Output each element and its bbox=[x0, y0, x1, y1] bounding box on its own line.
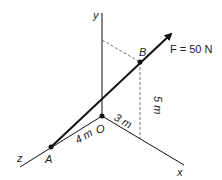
point-a-label: A bbox=[44, 153, 52, 165]
z-axis bbox=[20, 116, 102, 167]
force-vector bbox=[51, 34, 171, 147]
x-axis-label: x bbox=[176, 166, 183, 178]
point-a bbox=[49, 145, 54, 150]
x-axis bbox=[102, 116, 184, 165]
z-distance-label: 4 m bbox=[73, 126, 95, 146]
point-b bbox=[138, 60, 143, 65]
y-axis-label: y bbox=[92, 9, 100, 21]
height-label: 5 m bbox=[152, 96, 164, 114]
z-axis-label: z bbox=[16, 152, 23, 164]
force-label: F = 50 N bbox=[170, 43, 213, 55]
point-b-label: B bbox=[139, 46, 146, 58]
point-origin bbox=[100, 114, 105, 119]
x-distance-label: 3 m bbox=[112, 111, 134, 131]
origin-label: O bbox=[96, 123, 105, 135]
force-diagram: y z x O A B F = 50 N 4 m 3 m 5 m bbox=[0, 0, 222, 180]
dashed-line-to-y bbox=[102, 40, 140, 62]
